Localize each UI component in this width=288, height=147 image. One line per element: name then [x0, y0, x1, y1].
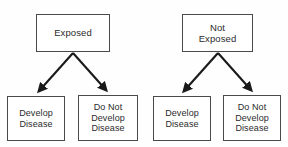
node-exposed-nodevelop: Do Not Develop Disease — [78, 95, 138, 141]
node-not-exposed: Not Exposed — [182, 14, 253, 52]
node-exposed: Exposed — [36, 14, 110, 52]
arrow-exposed-to-develop — [39, 53, 73, 91]
node-not-exposed-develop-label: Develop Disease — [165, 108, 199, 129]
node-exposed-develop: Develop Disease — [7, 96, 65, 141]
arrow-not-exposed-to-nodevelop — [218, 53, 251, 90]
node-exposed-nodevelop-label: Do Not Develop Disease — [91, 102, 125, 133]
node-not-exposed-label: Not Exposed — [199, 22, 237, 44]
node-not-exposed-nodevelop: Do Not Develop Disease — [223, 95, 281, 141]
node-not-exposed-nodevelop-label: Do Not Develop Disease — [235, 102, 269, 133]
arrow-exposed-to-nodevelop — [73, 53, 106, 90]
arrow-not-exposed-to-develop — [184, 53, 218, 91]
diagram-canvas: Exposed Develop Disease Do Not Develop D… — [0, 0, 288, 147]
node-exposed-label: Exposed — [54, 27, 92, 38]
node-not-exposed-develop: Develop Disease — [153, 96, 211, 141]
node-exposed-develop-label: Develop Disease — [19, 108, 53, 129]
